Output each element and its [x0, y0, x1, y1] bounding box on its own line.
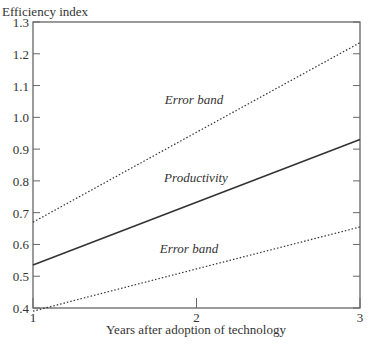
x-tick-label: 3	[357, 310, 364, 325]
x-tick-label: 1	[30, 310, 37, 325]
y-tick-label: 1.2	[13, 47, 29, 62]
x-axis-ticks: 123	[30, 298, 364, 325]
y-tick-label: 0.9	[13, 142, 29, 157]
y-axis-ticks: 0.40.50.60.70.80.91.01.11.21.3	[13, 15, 360, 316]
y-axis-label: Efficiency index	[2, 4, 89, 19]
y-tick-label: 1.0	[13, 110, 29, 125]
y-tick-label: 0.5	[13, 269, 29, 284]
y-tick-label: 0.8	[13, 174, 29, 189]
x-axis-label: Years after adoption of technology	[106, 322, 286, 337]
productivity-label: Productivity	[163, 170, 228, 185]
y-tick-label: 0.6	[13, 237, 30, 252]
y-tick-label: 0.4	[13, 301, 30, 316]
y-tick-label: 1.1	[13, 79, 29, 94]
error-band-upper-line	[33, 43, 360, 223]
axes-frame	[33, 22, 360, 308]
y-tick-label: 0.7	[13, 206, 30, 221]
lower-error-band-label: Error band	[159, 241, 219, 256]
upper-error-band-label: Error band	[164, 92, 224, 107]
chart: 0.40.50.60.70.80.91.01.11.21.3 123 Effic…	[0, 0, 372, 345]
